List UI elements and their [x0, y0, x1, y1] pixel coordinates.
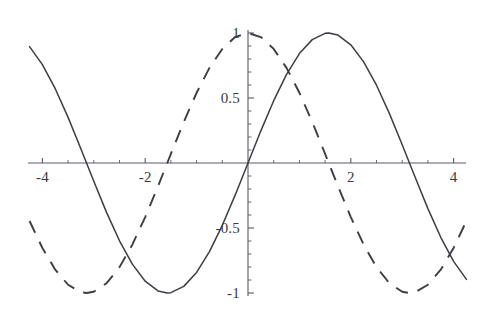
plot-canvas — [0, 0, 479, 314]
y-tick-label: 1 — [232, 26, 240, 41]
x-tick-label: 4 — [450, 170, 458, 185]
x-tick-label: -4 — [36, 170, 49, 185]
plot-figure: -4-22410.5-0.5-1 — [0, 0, 479, 314]
axes-group — [28, 30, 466, 296]
y-tick-label: 0.5 — [221, 91, 240, 106]
x-tick-label: -2 — [139, 170, 152, 185]
y-tick-label: -0.5 — [215, 221, 240, 236]
y-tick-label: -1 — [227, 286, 240, 301]
x-tick-label: 2 — [347, 170, 355, 185]
